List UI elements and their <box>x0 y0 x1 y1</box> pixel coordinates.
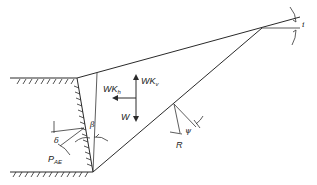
w-label: W <box>121 112 131 122</box>
beta-arc-right <box>94 137 108 141</box>
beta-label: β <box>89 120 95 129</box>
failure-plane-normal-line <box>174 104 196 127</box>
r-label: R <box>176 140 183 150</box>
wkh-label: WKh <box>103 84 122 95</box>
wedge-diagram: i WKv WKh W β δ PAE ψ R <box>0 0 317 185</box>
pae-label: PAE <box>48 154 63 165</box>
lower-ground-hatching <box>13 172 88 177</box>
psi-label: ψ <box>185 126 192 135</box>
reaction-r-line <box>174 104 180 133</box>
upper-ground-hatching <box>17 79 74 84</box>
angle-i-arc-lower <box>292 30 296 45</box>
wkv-arrow-head-icon <box>133 74 139 80</box>
w-arrow-head-icon <box>133 116 139 122</box>
delta-label: δ <box>54 136 59 145</box>
backfill-surface-line <box>77 17 300 78</box>
psi-arc <box>196 116 203 124</box>
wkh-arrow-head-icon <box>112 95 118 101</box>
wkv-label: WKv <box>141 76 160 87</box>
failure-plane-line <box>93 28 262 172</box>
angle-i-label: i <box>302 20 305 29</box>
